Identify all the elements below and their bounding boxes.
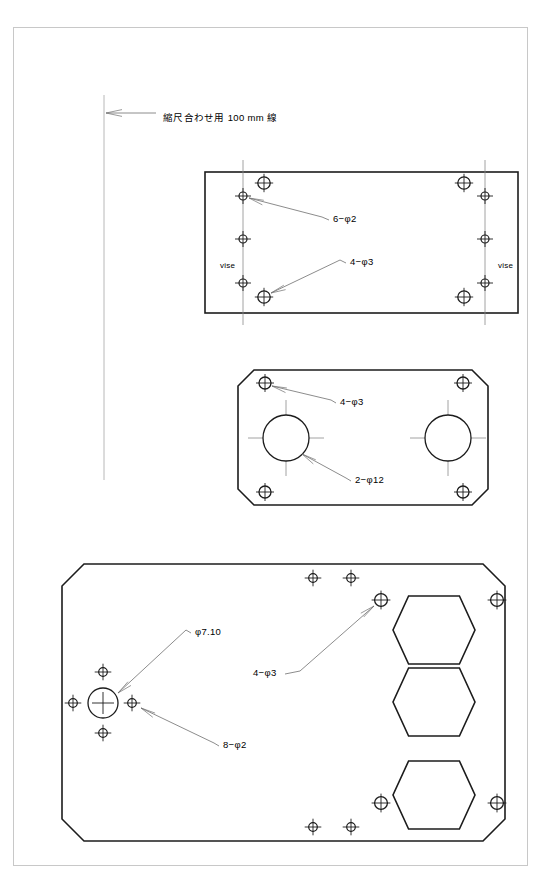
part-rectangular-plate-outline	[205, 172, 518, 313]
part-chamfered-baseplate-dim-1-leader	[141, 708, 214, 743]
part-chamfered-baseplate-hexagon-cutout	[393, 668, 475, 736]
part-chamfered-plate-2holes-dim-1-leader-shoulder	[346, 478, 351, 481]
part-chamfered-plate-2holes-dim-1-leader	[302, 454, 346, 478]
part-chamfered-baseplate-dim-0-arrowhead	[118, 682, 128, 693]
part-chamfered-baseplate-dim-2-arrowhead	[364, 606, 374, 617]
part-chamfered-baseplate-dim-1-leader-shoulder	[214, 743, 219, 746]
part-chamfered-baseplate-dim-0-leader-shoulder	[186, 630, 191, 633]
part-chamfered-plate-2holes-dim-1-arrowhead	[302, 454, 316, 460]
part-chamfered-plate-2holes-dim-0-leader	[272, 386, 331, 400]
part-chamfered-baseplate-hexagon-cutout	[393, 761, 475, 829]
part-rectangular-plate-dim-0-leader	[249, 198, 322, 217]
scale-reference-arrowhead	[106, 113, 122, 116]
part-chamfered-baseplate-dim-2-leader-shoulder	[285, 671, 300, 674]
part-chamfered-baseplate-dim-2-leader	[300, 606, 374, 671]
scale-reference-arrowhead	[106, 110, 122, 113]
part-chamfered-plate-2holes-dim-0-leader-shoulder	[331, 400, 336, 403]
part-chamfered-plate-2holes-bore-hole[interactable]	[425, 415, 471, 461]
part-rectangular-plate-dim-1-leader-shoulder	[340, 260, 346, 263]
part-rectangular-plate-dim-1-leader	[271, 260, 340, 293]
part-rectangular-plate-dim-0-leader-shoulder	[322, 217, 329, 220]
technical-drawing-canvas	[0, 0, 551, 883]
part-chamfered-baseplate-hexagon-cutout	[393, 596, 475, 664]
part-chamfered-baseplate-dim-0-leader	[118, 630, 186, 693]
part-chamfered-baseplate-dim-1-arrowhead	[141, 708, 155, 713]
drawing-page: 縮尺合わせ用 100 mm 線6−φ24−φ3visevise4−φ32−φ12…	[0, 0, 551, 883]
